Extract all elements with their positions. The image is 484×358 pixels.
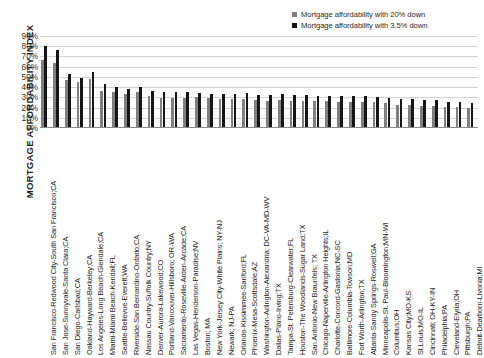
bar-3-5-percent-down	[423, 100, 426, 128]
x-axis-category-label: Las Vegas-Henderson-Paradise;NV	[191, 241, 200, 355]
bar-3-5-percent-down	[364, 96, 367, 128]
y-axis-tick: 40%	[22, 83, 38, 92]
x-axis-category-label: Pittsburgh;PA	[463, 312, 472, 355]
x-axis-category-label: Miami-Miami Beach-Kendall;FL	[108, 255, 117, 355]
bar-3-5-percent-down	[222, 94, 225, 128]
bar-3-5-percent-down	[127, 89, 130, 128]
x-axis-category-label: Nassau Country-Suffolk Country;NY	[144, 240, 153, 355]
x-axis-category-label: Tampa-St. Petersburg-Clearwater;FL	[286, 238, 295, 355]
y-axis-tick: 20%	[22, 103, 38, 112]
chart-legend: Mortgage affordability with 20% down Mor…	[292, 9, 478, 31]
bar-group	[160, 36, 172, 128]
bar-group	[41, 36, 53, 128]
bar-3-5-percent-down	[234, 94, 237, 128]
bar-group	[183, 36, 195, 128]
bar-group	[278, 36, 290, 128]
bar-group	[77, 36, 89, 128]
bar-3-5-percent-down	[317, 96, 320, 128]
bar-group	[207, 36, 219, 128]
bar-group	[219, 36, 231, 128]
bar-group	[112, 36, 124, 128]
legend-swatch-3-5-down	[292, 23, 297, 28]
y-axis-tick: 10%	[22, 113, 38, 122]
bar-group	[302, 36, 314, 128]
bar-3-5-percent-down	[411, 99, 414, 128]
bar-3-5-percent-down	[400, 99, 403, 128]
legend-label-3-5-down: Mortgage affordability with 3.5% down	[301, 21, 427, 30]
x-axis-category-labels: San Francisco-Redwood City-South San Fra…	[40, 129, 478, 357]
x-axis-category-label: St.Louis;MO-IL	[416, 307, 425, 355]
y-axis-tick: 90%	[22, 32, 38, 41]
x-axis-category-label: Seattle-Bellevue-Everett;WA	[120, 264, 129, 355]
x-axis-category-label: Detroit-Dearborn-Livonia;MI	[475, 267, 484, 356]
x-axis-category-label: Baltimore-Columbia-Towson;MD	[345, 252, 354, 355]
bar-3-5-percent-down	[139, 87, 142, 128]
x-axis-category-label: Orlando-Kissimmee-Sanford;FL	[239, 254, 248, 355]
bar-3-5-percent-down	[281, 94, 284, 128]
y-axis-tick: 60%	[22, 62, 38, 71]
x-axis-category-label: Columbus;OH	[392, 310, 401, 355]
bar-group	[325, 36, 337, 128]
bar-3-5-percent-down	[175, 92, 178, 128]
bar-group	[242, 36, 254, 128]
bar-3-5-percent-down	[293, 95, 296, 128]
bar-group	[266, 36, 278, 128]
bar-group	[53, 36, 65, 128]
bar-group	[100, 36, 112, 128]
bar-3-5-percent-down	[388, 98, 391, 128]
bar-3-5-percent-down	[269, 95, 272, 128]
x-axis-category-label: Portland-Vancouver-Hillsboro; OR-WA	[167, 233, 176, 355]
x-axis-category-label: Phoenix-Mesa-Scottsdale;AZ	[250, 262, 259, 355]
legend-label-20-down: Mortgage affordability with 20% down	[301, 10, 425, 19]
x-axis-category-label: Chicago-Naperville-Arlington Heights;IL	[321, 230, 330, 356]
bar-3-5-percent-down	[104, 84, 107, 128]
bar-3-5-percent-down	[68, 74, 71, 128]
x-axis-category-label: Oakland-Hayward-Berkeley;CA	[85, 255, 94, 355]
y-axis-tick: 0%	[26, 124, 38, 133]
plot-area	[40, 36, 478, 128]
bar-group	[349, 36, 361, 128]
y-axis-tick: 50%	[22, 72, 38, 81]
bar-3-5-percent-down	[210, 94, 213, 128]
x-axis-category-label: Houston-The Woodlands-Sugar Land;TX	[298, 225, 307, 355]
y-axis-tick-labels: 90%80%70%60%50%40%30%20%10%0%	[14, 36, 38, 128]
bar-3-5-percent-down	[198, 93, 201, 128]
x-axis-category-label: Boston; MA	[203, 318, 212, 355]
bar-3-5-percent-down	[257, 95, 260, 128]
bar-group	[361, 36, 373, 128]
x-axis-category-label: Dallas-Plano-Irving;TX	[274, 283, 283, 355]
bar-group	[136, 36, 148, 128]
bar-3-5-percent-down	[328, 96, 331, 128]
bar-group	[396, 36, 408, 128]
legend-swatch-20-down	[292, 12, 297, 17]
bar-3-5-percent-down	[92, 72, 95, 128]
x-axis-category-label: Newark; NJ-PA	[227, 306, 236, 355]
bar-3-5-percent-down	[163, 92, 166, 128]
x-axis-category-label: Atlanta-Sandy Springs-Roswell;GA	[369, 244, 378, 355]
bar-3-5-percent-down	[44, 46, 47, 128]
x-axis-category-label: Washington-Arlington-Alexandria; DC-VA-M…	[262, 197, 271, 355]
x-axis-category-label: Cleveland-Elyria;OH	[452, 290, 461, 355]
bar-group	[432, 36, 444, 128]
legend-item-3-5-down: Mortgage affordability with 3.5% down	[292, 20, 478, 30]
x-axis-category-label: Cincinnati; OH-KY-IN	[428, 288, 437, 355]
x-axis-category-label: Philadelphia;PA	[440, 305, 449, 355]
x-axis-category-label: Kansas City;MO-KS	[404, 291, 413, 355]
x-axis-category-label: Sacramento-Roseville-Arden-Arcade;CA	[179, 226, 188, 355]
bar-3-5-percent-down	[151, 91, 154, 128]
bar-3-5-percent-down	[305, 95, 308, 128]
bar-3-5-percent-down	[471, 103, 474, 128]
x-axis-category-label: New York-Jersey City-White Plains; NY-NJ	[215, 220, 224, 355]
bar-group	[195, 36, 207, 128]
bar-group	[290, 36, 302, 128]
x-axis-category-label: San Diego-Carlsbad;CA	[73, 278, 82, 355]
bar-3-5-percent-down	[80, 78, 83, 128]
x-axis-baseline	[40, 127, 478, 128]
bar-3-5-percent-down	[246, 93, 249, 128]
bar-3-5-percent-down	[56, 50, 59, 128]
bar-group	[373, 36, 385, 128]
bar-group	[124, 36, 136, 128]
x-axis-category-label: San Antonio-New Braunfels; TX	[310, 254, 319, 355]
bar-group	[65, 36, 77, 128]
